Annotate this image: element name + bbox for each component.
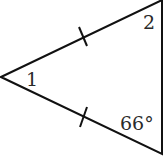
angle-label-1: 1 (26, 68, 38, 90)
angle-label-2: 2 (143, 11, 155, 33)
triangle-diagram: 1 2 66° (0, 0, 164, 162)
angle-label-66: 66° (120, 112, 154, 134)
